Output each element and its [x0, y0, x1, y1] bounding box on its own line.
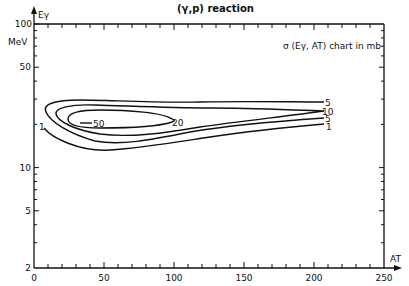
contour-label: 1 [39, 122, 45, 132]
y-tick-label: 5 [25, 206, 31, 216]
contour-lines [44, 100, 324, 150]
y-axis-arrow-icon [31, 6, 37, 14]
y-ticks [34, 24, 384, 243]
contour-level-20 [68, 110, 174, 128]
y-tick-label: 100 [15, 19, 32, 29]
x-axis-label: AT [390, 254, 401, 264]
chart-title: (γ,p) reaction [177, 3, 254, 14]
contour-chart: (γ,p) reaction [0, 0, 409, 286]
x-axis-arrow-icon [394, 265, 402, 271]
x-tick-label: 150 [235, 273, 252, 283]
y-tick-label: 50 [20, 62, 32, 72]
y-tick-label: 10 [20, 163, 32, 173]
contour-level-5 [45, 100, 324, 143]
contour-label: 20 [172, 118, 184, 128]
x-tick-label: 0 [31, 273, 37, 283]
x-tick-label: 50 [98, 273, 110, 283]
x-tick-label: 250 [375, 273, 392, 283]
y-axis-unit: MeV [8, 37, 28, 47]
chart-legend-text: σ (Eγ, AT) chart in mb [283, 41, 381, 51]
x-tick-label: 200 [305, 273, 322, 283]
contour-label: 1 [326, 122, 332, 132]
x-ticks [48, 24, 370, 268]
contour-label: 50 [93, 119, 105, 129]
y-tick-label: 2 [25, 263, 31, 273]
x-tick-label: 100 [165, 273, 182, 283]
y-axis-label: Eγ [38, 10, 50, 20]
